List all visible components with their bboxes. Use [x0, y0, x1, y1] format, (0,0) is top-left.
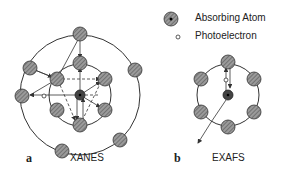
- legend-absorbing-atom: Absorbing Atom: [195, 12, 266, 23]
- panel-letter-b: b: [174, 151, 181, 166]
- panel-title-xanes: XANES: [70, 152, 104, 163]
- photoelectron-xanes: [42, 94, 46, 98]
- photoelectron-legend-icon: [176, 35, 180, 39]
- exafs-diagram: [194, 55, 261, 143]
- photoelectron-exafs: [224, 78, 228, 82]
- xanes-diagram: [15, 27, 142, 158]
- legend-icons: [164, 12, 180, 39]
- panel-letter-a: a: [26, 151, 32, 166]
- legend-photoelectron: Photoelectron: [195, 30, 257, 41]
- panel-title-exafs: EXAFS: [212, 152, 245, 163]
